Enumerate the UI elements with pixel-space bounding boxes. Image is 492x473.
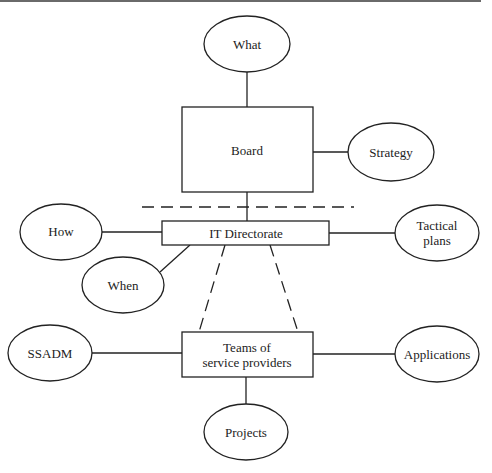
label-it-directorate: IT Directorate (209, 226, 283, 241)
node-ssadm: SSADM (8, 325, 92, 381)
label-what: What (233, 37, 262, 52)
node-it-directorate: IT Directorate (162, 221, 329, 245)
label-projects: Projects (225, 425, 267, 440)
label-teams-line1: Teams of (223, 340, 271, 355)
node-projects: Projects (204, 404, 288, 460)
node-teams: Teams of service providers (182, 332, 313, 377)
label-applications: Applications (404, 347, 470, 362)
node-tactical-plans: Tactical plans (395, 205, 479, 261)
node-strategy: Strategy (348, 123, 434, 181)
label-teams-line2: service providers (202, 355, 291, 370)
node-how: How (20, 204, 102, 260)
edge-it-directorate-when (160, 245, 190, 272)
label-when: When (107, 278, 139, 293)
label-tactical-plans-line1: Tactical (417, 218, 458, 233)
node-when: When (82, 257, 164, 313)
label-how: How (48, 224, 74, 239)
node-board: Board (182, 107, 313, 192)
node-applications: Applications (395, 326, 479, 382)
edge-dashed-right (270, 245, 298, 332)
diagram-canvas: What Board Strategy IT Directorate How T… (0, 0, 492, 473)
label-tactical-plans-line2: plans (423, 233, 450, 248)
label-strategy: Strategy (369, 145, 413, 160)
label-ssadm: SSADM (28, 346, 73, 361)
node-what: What (204, 16, 290, 72)
edge-dashed-left (199, 245, 225, 332)
label-board: Board (231, 143, 263, 158)
